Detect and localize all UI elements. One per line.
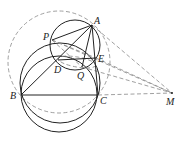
label-q: Q [77,70,85,81]
label-b: B [10,90,16,101]
side-ab [21,25,92,95]
line-pm [52,40,172,93]
label-a: A [93,15,101,26]
label-e: E [97,53,104,64]
point-m-dot [171,92,173,94]
label-d: D [53,64,62,75]
geometry-diagram: A P D E Q B C M [0,0,184,145]
circle-bdc [20,43,100,123]
line-cm [98,93,172,95]
label-p: P [42,31,49,42]
label-m: M [165,96,175,107]
segment-de [58,58,96,60]
label-c: C [100,95,107,106]
